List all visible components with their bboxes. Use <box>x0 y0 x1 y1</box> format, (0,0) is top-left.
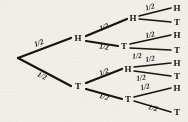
edge-probability-label-lbl-th-thh: 1/2 <box>145 54 156 63</box>
tree-node-n-htt: T <box>174 46 180 55</box>
tree-node-n-thh: H <box>173 59 180 68</box>
tree-node-n-hth: H <box>173 31 180 40</box>
tree-node-n-ht: T <box>121 42 127 51</box>
probability-tree-diagram: HTHTHTHTHTHTHT 1/21/21/21/21/21/21/21/21… <box>0 0 188 122</box>
edge-probability-label-lbl-tt-ttt: 1/2 <box>147 103 158 113</box>
tree-edges-canvas <box>0 0 188 122</box>
tree-edge <box>134 88 171 97</box>
tree-node-n-tt: T <box>125 95 131 104</box>
tree-node-n-t: T <box>75 82 81 91</box>
tree-node-n-th: H <box>124 65 131 74</box>
tree-node-n-hht: T <box>174 18 180 27</box>
edge-probability-label-lbl-ht-hth: 1/2 <box>144 30 155 40</box>
tree-edge <box>18 38 71 58</box>
edge-probability-label-lbl-ht-htt: 1/2 <box>132 52 142 60</box>
tree-edge <box>134 63 171 67</box>
tree-edge <box>139 19 171 22</box>
tree-node-n-tth: H <box>173 84 180 93</box>
edge-probability-label-lbl-tt-tth: 1/2 <box>139 82 150 92</box>
edge-probability-label-lbl-h-ht: 1/2 <box>99 43 110 52</box>
tree-node-n-ttt: T <box>174 108 180 117</box>
tree-edge <box>130 48 171 50</box>
tree-node-n-hh: H <box>129 14 136 23</box>
tree-node-n-tht: T <box>174 72 180 81</box>
edge-probability-label-lbl-t-tt: 1/2 <box>98 92 109 102</box>
tree-node-n-h: H <box>74 34 81 43</box>
tree-node-n-hhh: H <box>173 4 180 13</box>
